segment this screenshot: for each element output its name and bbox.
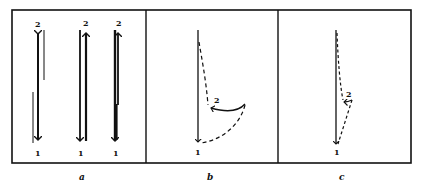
label-point-1: 1 <box>35 148 41 158</box>
panel-c: 2 1 c <box>334 30 352 182</box>
label-point-1: 1 <box>113 148 119 158</box>
panel-a-column-2: 2 1 <box>78 18 89 158</box>
label-point-2: 2 <box>346 89 352 99</box>
panel-a: 2 1 2 1 2 1 a <box>33 18 122 182</box>
label-point-2: 2 <box>35 19 41 29</box>
label-point-1: 1 <box>78 148 84 158</box>
panel-b: 2 1 b <box>195 30 245 182</box>
dashed-path-to-2 <box>199 42 208 105</box>
panel-b-caption: b <box>207 172 213 182</box>
figure-diagram: 2 1 2 1 2 1 a 2 1 b <box>0 0 424 190</box>
panel-a-caption: a <box>79 172 85 182</box>
label-point-1: 1 <box>195 147 201 157</box>
label-point-2: 2 <box>116 18 122 28</box>
panel-a-column-1: 2 1 <box>33 19 44 158</box>
label-point-2: 2 <box>83 18 89 28</box>
dashed-return-line <box>338 100 352 144</box>
dashed-path-to-2 <box>337 33 343 100</box>
label-point-1: 1 <box>334 147 340 157</box>
label-point-2: 2 <box>214 95 220 105</box>
panel-a-column-3: 2 1 <box>113 18 122 158</box>
panel-c-caption: c <box>339 172 345 182</box>
short-arrow-into-2 <box>344 100 352 102</box>
